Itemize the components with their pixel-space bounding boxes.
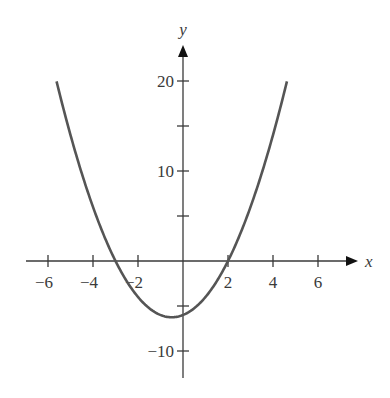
x-tick-label: 4 [269,273,278,292]
y-axis-arrow-icon [178,45,188,57]
x-axis-label: x [364,252,373,271]
x-axis-arrow-icon [346,256,358,266]
x-tick-label: 6 [314,273,323,292]
parabola-chart: −6−4−22462010−10 x y [0,0,390,398]
y-axis-label: y [177,20,187,39]
x-tick-label: 2 [224,273,233,292]
y-tick-label: 20 [157,72,174,91]
y-tick-label: 10 [157,162,174,181]
x-tick-label: −4 [80,273,99,292]
y-tick-label: −10 [147,342,174,361]
x-tick-label: −6 [35,273,53,292]
